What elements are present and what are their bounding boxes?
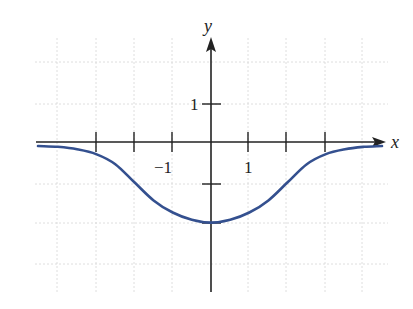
x-tick-label-neg1: −1 xyxy=(154,158,172,177)
y-axis-label: y xyxy=(202,16,212,36)
y-tick-label-pos1: 1 xyxy=(190,95,199,114)
function-graph: y x −1 1 1 xyxy=(0,0,413,309)
x-axis-label: x xyxy=(390,132,399,152)
x-tick-label-pos1: 1 xyxy=(244,158,253,177)
